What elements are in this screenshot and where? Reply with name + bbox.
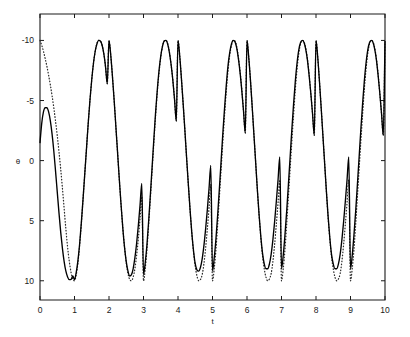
y-tick-label: -5 <box>26 96 34 106</box>
figure-container: 012345678910 1050-5-10 t θ <box>0 0 410 337</box>
x-tick-label: 2 <box>107 305 112 315</box>
x-axis-label: t <box>211 317 214 326</box>
y-tick-label: 0 <box>29 156 34 166</box>
y-tick-label: 10 <box>25 276 35 286</box>
x-tick-label: 4 <box>176 305 181 315</box>
x-tick-label: 9 <box>348 305 353 315</box>
x-tick-label: 6 <box>245 305 250 315</box>
x-tick-labels-group: 012345678910 <box>38 305 390 315</box>
line-chart: 012345678910 1050-5-10 t θ <box>0 0 410 337</box>
y-tick-labels-group: 1050-5-10 <box>22 35 35 285</box>
y-tick-label: 5 <box>29 216 34 226</box>
x-tick-label: 3 <box>141 305 146 315</box>
x-tick-label: 8 <box>314 305 319 315</box>
x-tick-label: 0 <box>38 305 43 315</box>
x-tick-label: 7 <box>279 305 284 315</box>
x-tick-label: 10 <box>380 305 390 315</box>
y-axis-label: θ <box>16 157 21 166</box>
x-tick-label: 1 <box>72 305 77 315</box>
series-solid-line <box>40 40 385 279</box>
y-tick-label: -10 <box>22 35 35 45</box>
x-tick-label: 5 <box>210 305 215 315</box>
